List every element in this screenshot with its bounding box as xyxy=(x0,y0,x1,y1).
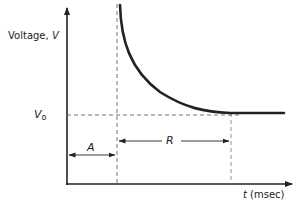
interval-r-label: R xyxy=(166,135,174,146)
baseline-label: Vo xyxy=(34,109,46,120)
y-axis-symbol: V xyxy=(52,30,59,41)
y-axis-label-text: Voltage, xyxy=(8,30,49,41)
voltage-time-diagram: Voltage, V Vo A R t (msec) xyxy=(0,0,305,207)
baseline-subscript: o xyxy=(42,113,47,122)
voltage-decay-curve xyxy=(120,5,284,113)
interval-a-label: A xyxy=(87,142,95,153)
x-axis-unit: (msec) xyxy=(250,189,284,200)
baseline-symbol: V xyxy=(34,108,42,121)
x-axis-symbol: t xyxy=(243,189,247,200)
y-axis-label: Voltage, V xyxy=(8,31,59,41)
x-axis-label: t (msec) xyxy=(243,190,285,200)
